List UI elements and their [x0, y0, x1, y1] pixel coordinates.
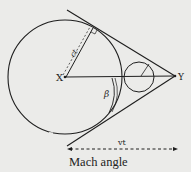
label-vt: vt: [117, 138, 127, 147]
circle-gap: [49, 133, 53, 134]
point-x-marker: [64, 76, 67, 79]
arrowhead-right-icon: [173, 147, 178, 151]
label-beta: β: [103, 89, 109, 99]
mach-angle-diagram: X Y ct β vt Mach angle: [0, 0, 191, 172]
label-y: Y: [177, 72, 185, 82]
point-y-marker: [174, 75, 177, 78]
small-wavefront-circle: [124, 62, 154, 92]
label-ct: ct: [68, 47, 80, 59]
axis-line-xy: [65, 76, 175, 77]
caption-mach-angle: Mach angle: [69, 155, 128, 169]
label-x: X: [56, 72, 64, 83]
small-circle-radius: [141, 64, 149, 76]
arrowhead-left-icon: [67, 147, 72, 151]
